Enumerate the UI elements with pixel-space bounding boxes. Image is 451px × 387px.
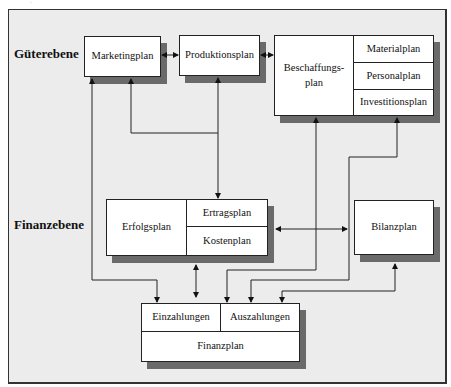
level-label-finance: Finanzebene [14, 217, 84, 233]
balance-plan-label: Bilanzplan [355, 201, 433, 254]
balance-plan-box: Bilanzplan [354, 200, 434, 255]
financial-plan-box: Einzahlungen Auszahlungen Finanzplan [141, 303, 300, 362]
production-plan-box: Produktionsplan [179, 35, 260, 76]
procurement-plan-label: Beschaffungs- plan [275, 36, 354, 115]
success-plan-box: Erfolgsplan Ertragsplan Kostenplan [106, 199, 268, 256]
level-label-goods: Güterebene [14, 46, 79, 62]
material-plan-label: Materialplan [354, 36, 433, 63]
revenue-plan-label: Ertragsplan [187, 200, 267, 227]
financial-plan-label: Finanzplan [142, 332, 299, 361]
receipts-label: Einzahlungen [142, 304, 221, 332]
investment-plan-label: Investitionsplan [354, 90, 433, 115]
payments-label: Auszahlungen [221, 304, 299, 332]
cost-plan-label: Kostenplan [187, 227, 267, 255]
personnel-plan-label: Personalplan [354, 63, 433, 90]
production-plan-label: Produktionsplan [180, 36, 259, 75]
cropped-text-fragment: · [30, 0, 32, 6]
success-plan-label: Erfolgsplan [107, 200, 187, 255]
procurement-plan-box: Beschaffungs- plan Materialplan Personal… [274, 35, 434, 116]
marketing-plan-label: Marketingplan [85, 37, 160, 76]
marketing-plan-box: Marketingplan [84, 36, 161, 77]
